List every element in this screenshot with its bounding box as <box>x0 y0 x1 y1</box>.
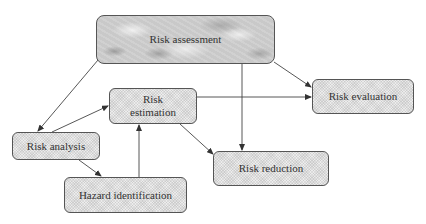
node-risk-analysis-label: Risk analysis <box>27 140 85 153</box>
node-risk-evaluation: Risk evaluation <box>312 79 414 114</box>
edge-assessment-to-analysis <box>38 60 98 131</box>
node-risk-estimation: Risk estimation <box>109 88 197 124</box>
node-hazard-identification-label: Hazard identification <box>79 189 172 202</box>
node-hazard-identification: Hazard identification <box>64 177 187 213</box>
edge-analysis-to-hazard <box>79 160 101 176</box>
edge-assessment-to-evaluation <box>274 62 311 87</box>
node-risk-assessment-label: Risk assessment <box>150 33 222 46</box>
node-risk-estimation-label-line1: Risk <box>143 93 163 106</box>
node-risk-reduction-label: Risk reduction <box>239 162 303 175</box>
node-risk-reduction: Risk reduction <box>213 151 329 186</box>
node-risk-assessment: Risk assessment <box>96 15 275 64</box>
node-risk-evaluation-label: Risk evaluation <box>329 90 398 103</box>
edge-estimation-to-reduction <box>180 124 213 154</box>
node-risk-analysis: Risk analysis <box>12 132 100 160</box>
edge-analysis-to-estimation <box>52 106 108 132</box>
node-risk-estimation-label-line2: estimation <box>130 106 176 119</box>
